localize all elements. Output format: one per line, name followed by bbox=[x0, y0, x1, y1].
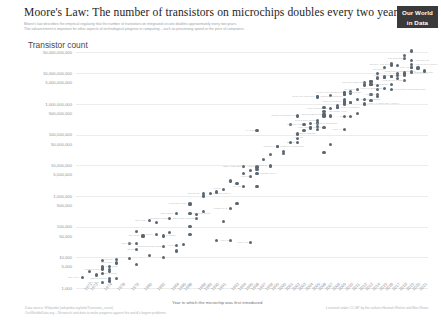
data-point[interactable] bbox=[343, 115, 346, 118]
data-point[interactable] bbox=[410, 59, 413, 62]
data-point[interactable] bbox=[322, 106, 325, 109]
data-point[interactable] bbox=[148, 219, 151, 222]
data-point[interactable] bbox=[276, 145, 279, 148]
x-axis-tick-label: 1980 bbox=[143, 282, 153, 292]
data-point[interactable] bbox=[343, 93, 346, 96]
data-point[interactable] bbox=[376, 88, 379, 91]
data-point-label: Apple M1 bbox=[399, 66, 410, 69]
data-point[interactable] bbox=[416, 66, 419, 69]
data-point[interactable] bbox=[229, 179, 232, 182]
data-point[interactable] bbox=[262, 158, 265, 161]
data-point[interactable] bbox=[423, 69, 426, 72]
data-point[interactable] bbox=[390, 75, 393, 78]
data-point[interactable] bbox=[175, 212, 178, 215]
data-point[interactable] bbox=[369, 80, 372, 83]
data-point[interactable] bbox=[81, 276, 84, 279]
data-point[interactable] bbox=[128, 257, 131, 260]
data-point[interactable] bbox=[101, 281, 104, 284]
data-point-label: Z8000 bbox=[127, 248, 134, 251]
data-point[interactable] bbox=[188, 225, 191, 228]
data-point[interactable] bbox=[316, 128, 319, 131]
data-point[interactable] bbox=[383, 87, 386, 90]
data-point[interactable] bbox=[410, 66, 413, 69]
data-point[interactable] bbox=[343, 98, 346, 101]
data-point-label: Itanium 2 Madison 6M bbox=[271, 114, 296, 117]
data-point[interactable] bbox=[135, 248, 138, 251]
data-point[interactable] bbox=[383, 66, 386, 69]
data-point[interactable] bbox=[108, 279, 111, 282]
data-point[interactable] bbox=[410, 49, 413, 52]
data-point[interactable] bbox=[229, 207, 232, 210]
data-point[interactable] bbox=[296, 132, 299, 135]
data-point[interactable] bbox=[95, 273, 98, 276]
data-point[interactable] bbox=[115, 261, 118, 264]
data-point[interactable] bbox=[309, 122, 312, 125]
footer-license[interactable]: OurWorldinData.org – Research and data t… bbox=[25, 311, 425, 316]
data-point[interactable] bbox=[322, 114, 325, 117]
data-point[interactable] bbox=[202, 194, 205, 197]
data-point[interactable] bbox=[242, 185, 245, 188]
data-point[interactable] bbox=[222, 220, 225, 223]
data-point-label: Zilog Z80 bbox=[103, 258, 113, 261]
data-point[interactable] bbox=[410, 71, 413, 74]
data-point-label: PA-8500 bbox=[246, 129, 256, 132]
data-point[interactable] bbox=[322, 151, 325, 154]
data-point[interactable] bbox=[322, 110, 325, 113]
data-point[interactable] bbox=[322, 126, 325, 129]
data-point[interactable] bbox=[249, 241, 252, 244]
data-point[interactable] bbox=[155, 233, 158, 236]
data-point[interactable] bbox=[188, 212, 191, 215]
data-point[interactable] bbox=[188, 202, 191, 205]
data-point[interactable] bbox=[390, 62, 393, 65]
data-point[interactable] bbox=[269, 153, 272, 156]
data-point[interactable] bbox=[229, 239, 232, 242]
data-point-label: DEC Alpha 21164 bbox=[223, 165, 243, 168]
data-point[interactable] bbox=[235, 202, 238, 205]
data-point-label: Dual-core Itanium 2 bbox=[292, 95, 314, 98]
data-point[interactable] bbox=[222, 188, 225, 191]
data-point[interactable] bbox=[162, 234, 165, 237]
data-point[interactable] bbox=[356, 112, 359, 115]
data-point[interactable] bbox=[356, 98, 359, 101]
data-point[interactable] bbox=[255, 168, 258, 171]
data-point[interactable] bbox=[175, 244, 178, 247]
data-point-label: AWS Graviton2 bbox=[386, 57, 403, 60]
data-point[interactable] bbox=[329, 114, 332, 117]
data-point[interactable] bbox=[141, 234, 144, 237]
data-point-label: Opteron Barcelona bbox=[301, 113, 322, 116]
data-point[interactable] bbox=[302, 129, 305, 132]
data-point[interactable] bbox=[343, 102, 346, 105]
data-point[interactable] bbox=[155, 221, 158, 224]
data-point[interactable] bbox=[390, 88, 393, 91]
data-point[interactable] bbox=[329, 143, 332, 146]
data-point[interactable] bbox=[269, 164, 272, 167]
data-point[interactable] bbox=[363, 102, 366, 105]
data-point[interactable] bbox=[135, 263, 138, 266]
data-point[interactable] bbox=[390, 83, 393, 86]
data-point[interactable] bbox=[182, 243, 185, 246]
data-point[interactable] bbox=[188, 233, 191, 236]
data-point[interactable] bbox=[135, 230, 138, 233]
data-point-label: ARM 1 bbox=[167, 244, 175, 247]
data-point[interactable] bbox=[175, 249, 178, 252]
data-point[interactable] bbox=[255, 129, 258, 132]
data-point-label: 8-core Xeon Nehalem-EX bbox=[316, 91, 345, 94]
data-point-label: Intel 8085 bbox=[101, 261, 112, 264]
data-point[interactable] bbox=[115, 277, 118, 280]
data-point[interactable] bbox=[255, 185, 258, 188]
data-point[interactable] bbox=[369, 99, 372, 102]
gridline bbox=[76, 196, 428, 197]
data-point[interactable] bbox=[343, 128, 346, 131]
data-point[interactable] bbox=[215, 239, 218, 242]
data-point[interactable] bbox=[195, 213, 198, 216]
data-point[interactable] bbox=[349, 115, 352, 118]
data-point[interactable] bbox=[255, 172, 258, 175]
data-point[interactable] bbox=[162, 256, 165, 259]
data-point[interactable] bbox=[168, 217, 171, 220]
data-point[interactable] bbox=[376, 76, 379, 79]
data-point[interactable] bbox=[296, 114, 299, 117]
data-point[interactable] bbox=[209, 192, 212, 195]
data-point[interactable] bbox=[369, 83, 372, 86]
data-point[interactable] bbox=[249, 169, 252, 172]
data-point[interactable] bbox=[383, 75, 386, 78]
